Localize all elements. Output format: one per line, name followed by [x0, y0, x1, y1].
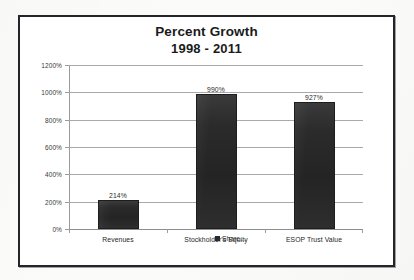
y-tick-mark: [65, 147, 69, 148]
scanned-page: Percent Growth 1998 - 2011 1200% 1000% 8…: [0, 0, 414, 280]
bar-value-label: 990%: [207, 86, 225, 93]
gridline: [69, 65, 363, 66]
chart-legend: Share...: [20, 235, 393, 242]
x-tick-mark: [362, 229, 363, 233]
chart-title-line2: 1998 - 2011: [20, 40, 393, 57]
x-tick-mark: [265, 229, 266, 233]
bar-value-label: 214%: [109, 192, 127, 199]
chart-frame: Percent Growth 1998 - 2011 1200% 1000% 8…: [18, 15, 395, 267]
y-tick-mark: [65, 174, 69, 175]
bar-value-label: 927%: [305, 94, 323, 101]
bar[interactable]: 927%: [294, 102, 335, 229]
y-tick-mark: [65, 120, 69, 121]
gridline-baseline: [69, 229, 363, 230]
legend-label: Share...: [222, 235, 246, 242]
bar[interactable]: 990%: [196, 94, 237, 229]
y-axis-label: 800%: [45, 116, 62, 123]
y-axis-label: 200%: [45, 198, 62, 205]
y-tick-mark: [65, 92, 69, 93]
legend-entry[interactable]: Share...: [215, 235, 246, 242]
y-tick-mark: [65, 202, 69, 203]
y-axis-label: 400%: [45, 171, 62, 178]
chart-title: Percent Growth 1998 - 2011: [20, 23, 393, 57]
x-tick-mark: [167, 229, 168, 233]
bar[interactable]: 214%: [98, 200, 139, 229]
y-axis-label: 600%: [45, 144, 62, 151]
y-axis-label: 1200%: [41, 62, 62, 69]
y-axis-label: 0%: [52, 226, 62, 233]
y-axis-label: 1000%: [41, 89, 62, 96]
plot-area: 1200% 1000% 800% 600% 400% 200% 0% 214% …: [69, 65, 363, 229]
x-tick-mark: [69, 229, 70, 233]
legend-swatch-icon: [215, 236, 220, 241]
chart-title-line1: Percent Growth: [20, 23, 393, 40]
y-tick-mark: [65, 65, 69, 66]
